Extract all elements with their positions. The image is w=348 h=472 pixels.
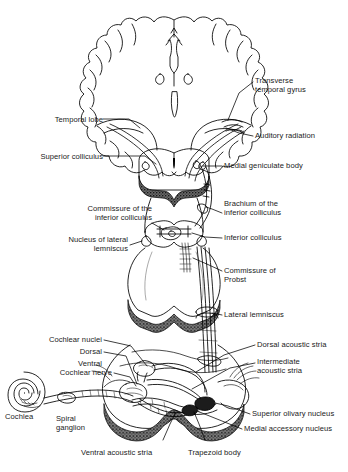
label-nucleus-of-lateral-lemniscus: Nucleus of lateral lemniscus <box>40 235 128 254</box>
label-cochlear-nuclei: Cochlear nuclei <box>24 335 102 344</box>
label-temporal-lobe: Temporal lobe <box>3 115 103 124</box>
label-ventral-acoustic-stria: Ventral acoustic stria <box>81 448 152 457</box>
label-medial-accessory-nucleus: Medial accessory nucleus <box>244 424 332 433</box>
label-brachium-of-inferior-colliculus: Brachium of the inferior colliculus <box>224 199 281 218</box>
label-intermediate-acoustic-stria: Intermediate acoustic stria <box>257 357 302 376</box>
label-commissure-of-inferior-colliculus: Commissure of the inferior colliculus <box>62 204 152 223</box>
label-medial-geniculate-body: Medial geniculate body <box>224 161 303 170</box>
transverse-temporal-gyrus-marks <box>222 120 243 131</box>
label-inferior-colliculus: Inferior colliculus <box>224 233 282 242</box>
label-cochlea: Cochlea <box>5 412 33 421</box>
label-spiral-ganglion: Spiral ganglion <box>56 414 85 433</box>
label-cochlear-nerve: Cochlear nerve <box>14 368 112 377</box>
commissure-of-probst-fibers <box>180 243 191 272</box>
label-transverse-temporal-gyrus: Transverse temporal gyrus <box>255 76 306 95</box>
label-commissure-of-probst: Commissure of Probst <box>224 266 276 285</box>
cochlea <box>8 372 45 412</box>
label-cochlear-nuclei-ventral: Ventral <box>24 359 102 368</box>
label-auditory-radiation: Auditory radiation <box>255 131 315 140</box>
label-trapezoid-body: Trapezoid body <box>188 448 241 457</box>
label-cochlear-nuclei-dorsal: Dorsal <box>24 347 102 356</box>
cochlear-nuclei <box>119 361 155 403</box>
label-superior-olivary-nucleus: Superior olivary nucleus <box>252 409 334 418</box>
cerebrum-outline <box>80 17 269 176</box>
lateral-lemniscus-bundle <box>196 247 218 372</box>
midbrain <box>139 149 212 247</box>
label-lateral-lemniscus: Lateral lemniscus <box>224 310 284 319</box>
leader-lines <box>103 82 255 440</box>
label-dorsal-acoustic-stria: Dorsal acoustic stria <box>257 340 326 349</box>
label-superior-colliculus: Superior colliculus <box>3 152 103 161</box>
